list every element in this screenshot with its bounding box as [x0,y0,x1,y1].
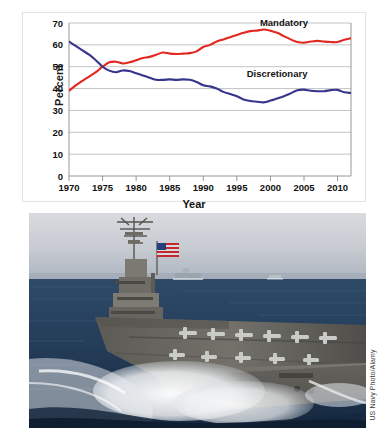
y-tick-40: 40 [52,83,63,94]
y-tick-60: 60 [52,39,63,50]
x-tick-marks [69,176,338,181]
y-tick-10: 10 [52,149,63,160]
x-tick-2010: 2010 [327,182,348,193]
x-tick-1980: 1980 [126,182,147,193]
distant-ship-2 [267,275,283,280]
x-tick-1995: 1995 [226,182,248,193]
y-tick-0: 0 [58,171,63,182]
y-tick-30: 30 [52,105,63,116]
photo-illustration [29,213,366,428]
aircraft-carrier-photo [29,213,366,428]
y-tick-70: 70 [52,18,63,29]
photo-credit-wrap: US Navy Photo/Alamy [365,330,381,442]
chart-svg: 70 60 50 40 30 20 10 0 1970 1975 1980 19… [23,13,367,203]
x-tick-1975: 1975 [92,182,114,193]
x-tick-2005: 2005 [293,182,315,193]
series-label-mandatory: Mandatory [260,17,309,28]
series-label-discretionary: Discretionary [247,68,308,79]
x-tick-1990: 1990 [193,182,214,193]
x-tick-1970: 1970 [58,182,79,193]
sky [29,213,366,279]
y-tick-labels: 70 60 50 40 30 20 10 0 [52,18,63,182]
x-tick-2000: 2000 [260,182,281,193]
x-axis-title: Year [0,198,388,210]
photo-credit: US Navy Photo/Alamy [366,329,380,441]
y-tick-50: 50 [52,61,63,72]
x-tick-labels: 1970 1975 1980 1985 1990 1995 2000 2005 … [58,182,348,193]
page-root: 70 60 50 40 30 20 10 0 1970 1975 1980 19… [0,0,388,447]
x-tick-1985: 1985 [159,182,181,193]
line-chart: 70 60 50 40 30 20 10 0 1970 1975 1980 19… [22,12,366,202]
y-tick-20: 20 [52,127,63,138]
